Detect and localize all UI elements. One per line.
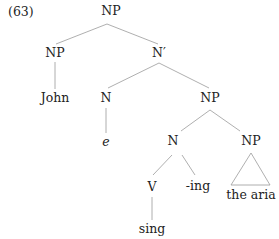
edge-root-nbar — [107, 24, 158, 44]
edge-root-np — [56, 24, 107, 44]
tree-edges — [0, 0, 279, 239]
node-v: V — [147, 180, 156, 194]
leaf-e: e — [102, 135, 109, 149]
leaf-the-aria: the aria — [226, 188, 275, 202]
node-n-empty: N — [101, 91, 112, 105]
node-np-inner: NP — [200, 91, 219, 105]
edge-nbar-np — [159, 63, 209, 88]
edge-np-np — [210, 110, 240, 131]
node-n-inner: N — [168, 134, 179, 148]
node-np-john: NP — [45, 46, 64, 60]
node-root-np: NP — [101, 4, 120, 18]
edge-np-n — [181, 110, 210, 131]
node-nbar: N′ — [152, 46, 166, 60]
edge-n-v — [153, 155, 172, 175]
edge-nbar-n — [108, 63, 159, 88]
leaf-ing: -ing — [186, 179, 210, 193]
edge-n-ing — [182, 155, 195, 175]
syntax-tree-diagram: (63) NP NP N′ John N e NP N NP V -ing th… — [0, 0, 279, 239]
node-np-aria: NP — [241, 134, 260, 148]
triangle-np-aria — [231, 153, 270, 185]
leaf-sing: sing — [139, 222, 165, 236]
leaf-john: John — [41, 91, 70, 105]
